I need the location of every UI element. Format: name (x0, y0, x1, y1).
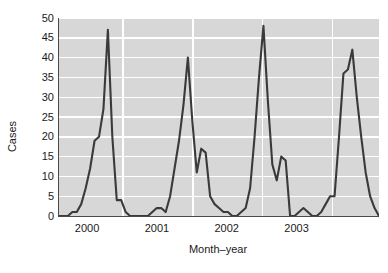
x-tick-label: 2001 (127, 222, 187, 234)
x-axis-tick-labels: 2000200120022003 (0, 0, 388, 273)
x-tick-label: 2000 (57, 222, 117, 234)
x-axis-title: Month–year (58, 243, 378, 255)
epidemic-curve-figure: Cases 05101520253035404550 2000200120022… (0, 0, 388, 273)
x-tick-label: 2002 (197, 222, 257, 234)
x-tick-label: 2003 (267, 222, 327, 234)
